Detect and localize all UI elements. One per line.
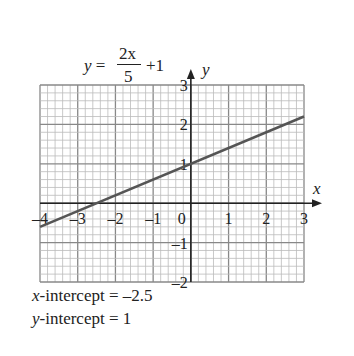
svg-text:1: 1 xyxy=(225,210,233,227)
svg-text:3: 3 xyxy=(180,77,188,94)
svg-text:2: 2 xyxy=(180,116,188,133)
svg-text:–2: –2 xyxy=(106,210,123,227)
equation-lhs: y = xyxy=(84,56,105,76)
x-axis-label: x xyxy=(313,179,321,199)
y-axis-label: y xyxy=(202,60,210,80)
fraction-bar xyxy=(117,64,141,65)
x-intercept-note: x-intercept = –2.5 xyxy=(32,286,153,306)
svg-text:0: 0 xyxy=(178,210,186,227)
svg-text:–1: –1 xyxy=(144,210,161,227)
svg-text:2: 2 xyxy=(262,210,270,227)
equation-rest: +1 xyxy=(146,56,164,76)
svg-text:–2: –2 xyxy=(171,274,188,291)
equation-numerator: 2x xyxy=(119,44,136,64)
equation-denominator: 5 xyxy=(124,67,133,87)
svg-text:3: 3 xyxy=(300,210,308,227)
svg-text:–1: –1 xyxy=(171,235,188,252)
y-intercept-note: y-intercept = 1 xyxy=(32,309,131,329)
